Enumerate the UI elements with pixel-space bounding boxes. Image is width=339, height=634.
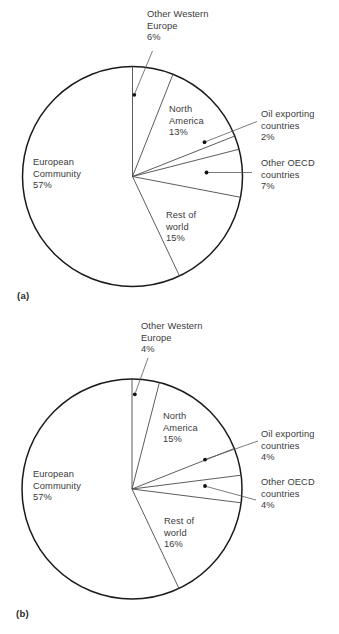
pie-b-label-ec-line2: Community (33, 481, 81, 493)
pie-a-label-owe-line1: Other Western (147, 9, 209, 21)
pie-a-value-oecd: 7% (261, 181, 315, 193)
pie-b-label-other-western-europe: Other Western Europe 4% (141, 321, 203, 356)
pie-b-label-row-line1: Rest of (164, 516, 194, 528)
pie-b-label-oecd-line2: countries (261, 489, 315, 501)
pie-a-label-oil-line1: Oil exporting (261, 109, 315, 121)
pie-a-marker-owe (132, 93, 136, 97)
pie-a-label-oil-exporting-countries: Oil exporting countries 2% (261, 109, 315, 144)
pie-b-label-oil-line2: countries (261, 441, 315, 453)
pie-a-label-ec-line2: Community (33, 169, 81, 181)
pie-b-label-owe-line2: Europe (141, 333, 203, 345)
pie-a-label-rest-of-world: Rest of world 15% (166, 210, 196, 245)
pie-b-value-oil: 4% (261, 452, 315, 464)
pie-b-label-european-community: European Community 57% (33, 469, 81, 504)
pie-b-marker-oil (203, 458, 207, 462)
pie-a-value-row: 15% (166, 233, 196, 245)
pie-a-label-row-line1: Rest of (166, 210, 196, 222)
pie-a-label-north-america: North America 13% (169, 104, 204, 139)
panel-tag-a: (a) (17, 290, 29, 301)
figure-page: Other Western Europe 6% North America 13… (0, 0, 339, 634)
pie-a-value-ec: 57% (33, 180, 81, 192)
pie-a-label-other-western-europe: Other Western Europe 6% (147, 9, 209, 44)
pie-b-label-other-oecd-countries: Other OECD countries 4% (261, 477, 315, 512)
pie-chart-panel-a: Other Western Europe 6% North America 13… (0, 0, 339, 318)
pie-b-label-north-america: North America 15% (163, 411, 198, 446)
pie-b-value-na: 15% (163, 434, 198, 446)
pie-a-label-na-line1: North (169, 104, 204, 116)
pie-a-label-european-community: European Community 57% (33, 157, 81, 192)
pie-a-label-other-oecd-countries: Other OECD countries 7% (261, 158, 315, 193)
pie-a-label-row-line2: world (166, 222, 196, 234)
pie-b-marker-oecd (203, 484, 207, 488)
pie-b-value-owe: 4% (141, 344, 203, 356)
pie-a-label-oecd-line2: countries (261, 170, 315, 182)
pie-a-label-oil-line2: countries (261, 121, 315, 133)
pie-b-marker-owe (133, 392, 137, 396)
pie-b-label-row-line2: world (164, 528, 194, 540)
pie-a-value-na: 13% (169, 127, 204, 139)
pie-a-label-owe-line2: Europe (147, 21, 209, 33)
pie-a-value-owe: 6% (147, 32, 209, 44)
pie-a-marker-oecd (205, 171, 209, 175)
pie-b-label-owe-line1: Other Western (141, 321, 203, 333)
pie-b-value-ec: 57% (33, 492, 81, 504)
pie-a-value-oil: 2% (261, 132, 315, 144)
pie-b-value-oecd: 4% (261, 500, 315, 512)
pie-b-label-oecd-line1: Other OECD (261, 477, 315, 489)
pie-a-label-oecd-line1: Other OECD (261, 158, 315, 170)
pie-a-label-na-line2: America (169, 116, 204, 128)
pie-b-value-row: 16% (164, 539, 194, 551)
pie-b-label-ec-line1: European (33, 469, 81, 481)
pie-a-label-ec-line1: European (33, 157, 81, 169)
panel-tag-b: (b) (16, 608, 29, 619)
pie-b-label-na-line1: North (163, 411, 198, 423)
pie-a-marker-oil (203, 140, 207, 144)
pie-chart-panel-b: Other Western Europe 4% North America 15… (0, 316, 339, 634)
pie-b-label-na-line2: America (163, 423, 198, 435)
pie-b-label-rest-of-world: Rest of world 16% (164, 516, 194, 551)
pie-b-label-oil-exporting-countries: Oil exporting countries 4% (261, 429, 315, 464)
pie-b-label-oil-line1: Oil exporting (261, 429, 315, 441)
